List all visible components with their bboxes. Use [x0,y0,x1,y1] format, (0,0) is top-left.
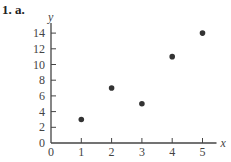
y-tick-label: 2 [39,120,45,134]
y-tick-label: 10 [33,58,45,72]
x-tick-label: 4 [169,145,175,159]
y-axis-label: y [47,10,54,24]
data-point [200,30,206,36]
x-axis-label: x [220,136,227,150]
y-tick-label: 12 [33,42,45,56]
data-point [79,117,85,123]
y-tick-label: 14 [33,26,45,40]
x-tick-label: 0 [48,145,54,159]
x-tick-label: 5 [200,145,206,159]
data-point [109,85,115,91]
scatter-chart: 01234502468101214xy [0,0,231,162]
data-point [169,54,175,60]
x-tick-label: 1 [78,145,84,159]
y-tick-label: 4 [39,105,45,119]
x-tick-label: 3 [139,145,145,159]
y-tick-label: 0 [39,136,45,150]
y-tick-label: 6 [39,89,45,103]
data-point [139,101,145,107]
x-tick-label: 2 [109,145,115,159]
y-tick-label: 8 [39,73,45,87]
